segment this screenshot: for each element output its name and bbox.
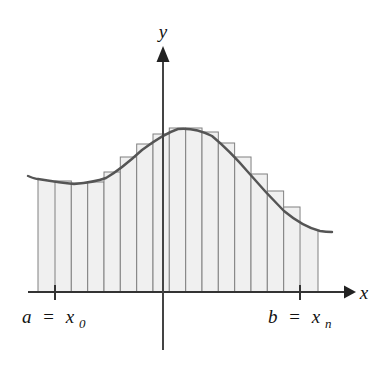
right-endpoint-equals: =	[289, 306, 300, 327]
right-endpoint-variable: b	[268, 306, 278, 327]
riemann-rectangle	[235, 157, 251, 292]
riemann-rectangle	[55, 181, 71, 292]
riemann-rectangle	[120, 157, 136, 292]
x-axis-arrowhead	[344, 286, 356, 299]
riemann-rectangle	[137, 144, 153, 292]
riemann-rectangle	[104, 172, 120, 292]
y-axis-label: y	[157, 21, 168, 42]
riemann-rectangles-group	[55, 128, 300, 292]
riemann-rectangle	[218, 143, 234, 292]
right-endpoint-subscript: n	[325, 316, 332, 331]
riemann-rectangle	[153, 134, 169, 292]
left-endpoint-subscript: 0	[79, 316, 86, 331]
left-endpoint-partition: x	[65, 306, 75, 327]
left-endpoint-label: a = x 0	[22, 306, 86, 331]
right-endpoint-partition: x	[311, 306, 321, 327]
x-axis-label: x	[359, 282, 369, 303]
left-endpoint-variable: a	[22, 306, 32, 327]
riemann-rectangle	[71, 183, 87, 292]
riemann-sum-diagram: x y a = x 0 b = x n	[0, 0, 384, 368]
riemann-rectangle	[267, 191, 283, 292]
left-endpoint-equals: =	[43, 306, 54, 327]
riemann-rectangle	[186, 128, 202, 292]
riemann-rectangle	[169, 128, 185, 292]
right-endpoint-label: b = x n	[268, 306, 331, 331]
riemann-rectangle	[202, 132, 218, 292]
riemann-sum-figure: x y a = x 0 b = x n	[0, 0, 384, 368]
riemann-rectangle	[88, 182, 104, 292]
y-axis-arrowhead	[157, 46, 170, 62]
